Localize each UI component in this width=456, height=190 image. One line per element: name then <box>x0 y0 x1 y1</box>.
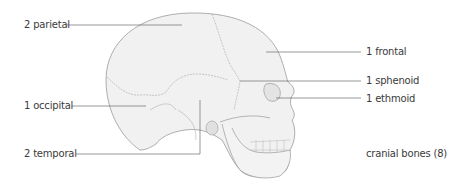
label-ethmoid: 1 ethmoid <box>366 93 415 105</box>
label-sphenoid: 1 sphenoid <box>366 75 419 87</box>
orbit <box>264 84 280 102</box>
caption: cranial bones (8) <box>366 148 447 160</box>
label-frontal: 1 frontal <box>366 46 406 58</box>
label-occipital: 1 occipital <box>24 100 73 112</box>
label-temporal: 2 temporal <box>24 148 77 160</box>
ear-canal <box>206 121 218 135</box>
label-parietal: 2 parietal <box>24 19 70 31</box>
teeth <box>250 140 290 152</box>
